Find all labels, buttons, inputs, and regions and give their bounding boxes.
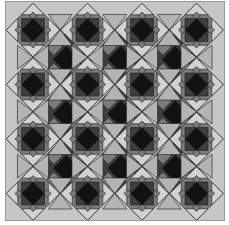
tessellation-pattern (6, 2, 224, 220)
pattern-frame (6, 2, 224, 220)
